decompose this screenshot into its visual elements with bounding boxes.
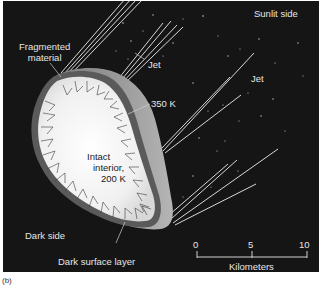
label-interior-line1: Intact — [79, 151, 149, 162]
scale-tick-0: 0 — [193, 239, 198, 250]
label-interior-line2: interior, — [79, 162, 149, 173]
label-dark-surface-layer: Dark surface layer — [58, 256, 135, 267]
label-350k: 350 K — [151, 98, 176, 109]
scale-tick-10: 10 — [299, 239, 310, 250]
label-dark-side: Dark side — [25, 230, 65, 241]
label-jet-2: Jet — [251, 73, 264, 84]
scale-tick-5: 5 — [248, 239, 253, 250]
label-sunlit-side: Sunlit side — [254, 8, 298, 19]
label-jet-1: Jet — [148, 59, 161, 70]
scale-bar — [197, 251, 307, 258]
label-interior-line3: 200 K — [79, 173, 149, 184]
label-fragmented-material-text: Fragmented material — [19, 41, 70, 63]
label-fragmented-material: Fragmented material — [19, 41, 70, 63]
comet-nucleus-diagram: Fragmented material Jet Sunlit side Jet … — [3, 1, 319, 272]
scale-unit: Kilometers — [229, 261, 274, 272]
label-intact-interior: Intact interior, 200 K — [79, 151, 149, 184]
panel-label: (b) — [2, 276, 12, 285]
